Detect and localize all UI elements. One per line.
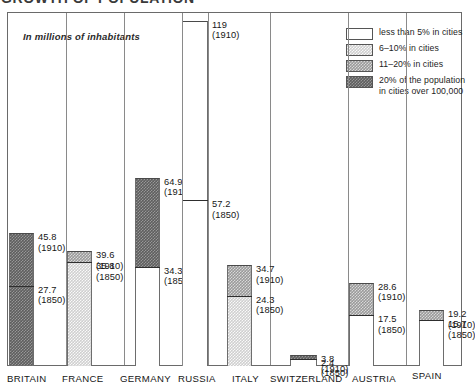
- value-1850: 27.7: [38, 285, 57, 295]
- value-1910: 45.8: [38, 232, 57, 242]
- bar-segment-1910-russia: [182, 21, 208, 200]
- value-label-1910-italy: 34.7(1910): [256, 264, 283, 285]
- bar-segment-1910-germany: [135, 178, 160, 267]
- country-axis: BRITAINFRANCEGERMANYRUSSIAITALYSWITZERLA…: [0, 368, 465, 391]
- bar-spain: [419, 310, 444, 366]
- bar-segment-1910-britain: [9, 233, 34, 285]
- value-label-1850-britain: 27.7(1850): [38, 285, 65, 306]
- cell-divider-3: [208, 13, 209, 365]
- value-label-1910-russia: 119(1910): [212, 20, 239, 41]
- year-1850: (1850): [378, 325, 405, 335]
- year-1910: (1910): [256, 275, 283, 285]
- bar-1850-divider-britain: [9, 286, 34, 287]
- value-1910: 28.6: [378, 282, 397, 292]
- bar-segment-1850-switzerland: [290, 359, 317, 366]
- bar-segment-1850-austria: [349, 315, 374, 366]
- cell-divider-6: [406, 13, 407, 365]
- bar-russia: [182, 21, 208, 366]
- legend-label-over100k-line1: 20% of the population: [379, 75, 465, 85]
- bar-segment-1910-spain: [419, 310, 444, 320]
- year-1850: (1850): [448, 330, 475, 340]
- value-1910: 119: [212, 20, 227, 30]
- value-label-1850-italy: 24.3(1850): [256, 295, 283, 316]
- country-label-spain: SPAIN: [412, 370, 442, 381]
- bar-segment-1850-spain: [419, 320, 444, 366]
- legend-label-over100k: 20% of the population in cities over 100…: [379, 75, 465, 97]
- value-label-1910-austria: 28.6(1910): [378, 282, 405, 303]
- legend-item-11to20: 11–20% in cities: [346, 59, 468, 72]
- country-label-france: FRANCE: [62, 373, 104, 384]
- year-1910: (1910): [378, 292, 405, 302]
- value-label-1850-spain: 15.7(1850): [448, 319, 475, 340]
- bar-switzerland: [290, 355, 317, 366]
- bar-1850-divider-spain: [419, 320, 444, 321]
- value-1850: 35.8: [96, 261, 115, 271]
- bar-1850-divider-switzerland: [290, 359, 317, 360]
- bar-segment-1850-germany: [135, 267, 160, 366]
- year-1910: (1910): [212, 30, 239, 40]
- bar-1850-divider-austria: [349, 315, 374, 316]
- chart-subtitle-note: In millions of inhabitants: [23, 31, 140, 42]
- value-1850: 24.3: [256, 295, 275, 305]
- value-label-1850-france: 35.8(1850): [96, 261, 123, 282]
- value-1850: 15.7: [448, 319, 467, 329]
- value-1850: 34.3: [164, 266, 183, 276]
- bar-italy: [227, 265, 252, 366]
- value-label-1910-britain: 45.8(1910): [38, 232, 65, 253]
- legend-swatch-lt5: [346, 28, 373, 40]
- legend-label-11to20: 11–20% in cities: [379, 59, 443, 70]
- country-label-germany: GERMANY: [120, 373, 171, 384]
- legend-label-over100k-line2: in cities over 100,000: [379, 86, 463, 96]
- value-1910: 39.6: [96, 250, 115, 260]
- bar-britain: [9, 233, 34, 366]
- bar-1850-divider-france: [67, 262, 92, 263]
- year-1850: (1850): [212, 210, 239, 220]
- bar-france: [67, 251, 92, 366]
- russia-left-edge: [182, 21, 183, 366]
- value-1850: 57.2: [212, 199, 231, 209]
- value-1850: 17.5: [378, 314, 397, 324]
- legend-item-over100k: 20% of the population in cities over 100…: [346, 75, 468, 97]
- legend-swatch-6to10: [346, 44, 373, 56]
- value-label-1850-russia: 57.2(1850): [212, 199, 239, 220]
- bar-1850-divider-italy: [227, 296, 252, 297]
- value-1910: 19.2: [448, 309, 467, 319]
- country-label-britain: BRITAIN: [7, 373, 47, 384]
- chart-legend: less than 5% in cities 6–10% in cities 1…: [346, 27, 468, 100]
- bar-1850-divider-germany: [135, 267, 160, 268]
- legend-label-6to10: 6–10% in cities: [379, 43, 439, 54]
- country-label-austria: AUSTRIA: [352, 373, 396, 384]
- bar-segment-1910-austria: [349, 283, 374, 315]
- year-1850: (1850): [38, 295, 65, 305]
- legend-label-lt5: less than 5% in cities: [379, 27, 462, 38]
- bar-1850-divider-russia: [182, 200, 208, 201]
- year-1910: (1910): [38, 243, 65, 253]
- chart-frame: In millions of inhabitants less than 5% …: [7, 12, 462, 366]
- legend-swatch-11to20: [346, 60, 373, 72]
- bar-segment-1850-france: [67, 262, 92, 366]
- value-1910: 64.9: [164, 177, 183, 187]
- legend-item-6to10: 6–10% in cities: [346, 43, 468, 56]
- year-1850: (1850): [96, 272, 123, 282]
- value-1910: 34.7: [256, 264, 275, 274]
- value-label-1850-austria: 17.5(1850): [378, 314, 405, 335]
- bar-austria: [349, 283, 374, 366]
- year-1850: (1850): [256, 305, 283, 315]
- country-label-italy: ITALY: [232, 373, 259, 384]
- legend-item-lt5: less than 5% in cities: [346, 27, 468, 40]
- bar-segment-1910-france: [67, 251, 92, 262]
- bar-segment-1850-italy: [227, 296, 252, 366]
- country-label-russia: RUSSIA: [178, 373, 216, 384]
- cell-divider-1: [124, 13, 125, 365]
- bar-segment-1850-britain: [9, 286, 34, 366]
- value-1850: 2.4: [321, 358, 334, 368]
- legend-swatch-over100k: [346, 76, 373, 88]
- bar-segment-1910-italy: [227, 265, 252, 295]
- chart-title-strip: GROWTH OF POPULATION: [0, 0, 465, 11]
- bar-germany: [135, 178, 160, 366]
- page-title: GROWTH OF POPULATION: [1, 0, 195, 6]
- country-label-switzerland: SWITZERLAND: [270, 373, 343, 384]
- bar-segment-1850-russia: [182, 200, 208, 366]
